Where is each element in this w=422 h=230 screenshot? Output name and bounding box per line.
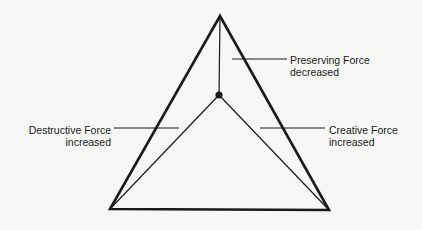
creative-force-label: Creative Force increased	[329, 124, 398, 148]
force-triangle-diagram	[0, 0, 422, 230]
creative-force-line2: increased	[329, 136, 398, 148]
destructive-force-line2: increased	[10, 136, 111, 148]
preserving-force-axis	[219, 16, 220, 95]
preserving-force-line1: Preserving Force	[290, 54, 370, 66]
preserving-force-line2: decreased	[290, 66, 370, 78]
preserving-force-label: Preserving Force decreased	[290, 54, 370, 78]
destructive-force-label: Destructive Force increased	[10, 124, 111, 148]
destructive-force-line1: Destructive Force	[10, 124, 111, 136]
creative-force-line1: Creative Force	[329, 124, 398, 136]
center-point	[215, 91, 222, 98]
